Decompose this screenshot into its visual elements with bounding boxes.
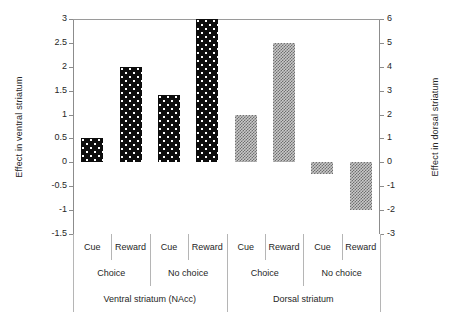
right-axis-tick [380,19,384,20]
right-axis-tick [380,115,384,116]
category-label-trial-type: Reward [188,234,226,260]
category-separator [227,234,228,260]
bar-ventral-no-choice-reward [196,19,218,162]
category-separator [150,260,151,286]
category-separator [265,234,266,260]
right-axis-tick-label: 3 [387,85,427,95]
right-axis-tick-label: 6 [387,13,427,23]
category-label-condition: No choice [303,260,380,286]
category-separator [188,234,189,260]
right-axis-tick [380,210,384,211]
category-separator [380,286,381,312]
bar-chart: Effect in ventral striatum Effect in dor… [0,0,453,324]
category-separator [380,234,381,260]
category-separator [380,260,381,286]
category-separator [111,234,112,260]
bar-dorsal-choice-reward [273,43,295,162]
left-axis-tick-label: 1 [27,109,67,119]
category-separator [150,234,151,260]
category-label-region: Ventral striatum (NAcc) [73,286,227,312]
left-axis-tick-label: 2 [27,61,67,71]
category-label-table: CueRewardCueRewardCueRewardCueReward Cho… [73,234,380,312]
right-axis-tick-label: -1 [387,180,427,190]
category-label-condition: Choice [73,260,150,286]
left-axis-tick-label: -1.5 [27,228,67,238]
left-axis-tick-label: 2.5 [27,37,67,47]
right-axis-tick [380,67,384,68]
category-separator [303,234,304,260]
bar-series-container [73,19,380,234]
category-label-trial-type: Reward [342,234,380,260]
category-label-condition: No choice [150,260,227,286]
right-axis-tick-label: 2 [387,109,427,119]
category-separator [342,234,343,260]
bar-ventral-choice-reward [120,67,142,163]
category-label-trial-type: Reward [111,234,149,260]
category-separator [73,260,74,286]
bar-ventral-no-choice-cue [158,95,180,162]
category-separator [73,234,74,260]
category-label-trial-type: Cue [227,234,265,260]
right-axis-tick [380,138,384,139]
category-label-trial-type: Cue [73,234,111,260]
category-label-trial-type: Reward [265,234,303,260]
right-axis-tick-label: 4 [387,61,427,71]
right-axis-tick-label: 1 [387,132,427,142]
category-label-condition: Choice [227,260,304,286]
right-axis-tick [380,43,384,44]
category-separator [73,286,74,312]
category-separator [303,260,304,286]
left-axis-tick-label: -1 [27,204,67,214]
left-axis-tick-label: 0 [27,156,67,166]
right-axis-tick-label: 0 [387,156,427,166]
category-label-trial-type: Cue [150,234,188,260]
category-separator [227,260,228,286]
right-axis-tick-label: 5 [387,37,427,47]
bar-dorsal-choice-cue [235,115,257,163]
plot-area: 32.521.510.50-0.5-1-1.5 6543210-1-2-3 [73,19,380,234]
right-axis-tick [380,91,384,92]
bar-ventral-choice-cue [81,138,103,162]
category-label-trial-type: Cue [303,234,341,260]
bar-dorsal-no-choice-cue [311,162,333,174]
category-separator [227,286,228,312]
right-axis-tick [380,186,384,187]
left-axis-tick-label: 1.5 [27,85,67,95]
left-axis-tick-label: 3 [27,13,67,23]
right-axis-tick-label: -2 [387,204,427,214]
left-axis-title: Effect in ventral striatum [14,47,24,207]
bar-dorsal-no-choice-reward [350,162,372,210]
right-axis-title: Effect in dorsal striatum [430,47,440,207]
left-axis-tick-label: -0.5 [27,180,67,190]
right-axis-tick-label: -3 [387,228,427,238]
left-axis-tick-label: 0.5 [27,132,67,142]
category-label-region: Dorsal striatum [227,286,381,312]
right-axis-tick [380,162,384,163]
